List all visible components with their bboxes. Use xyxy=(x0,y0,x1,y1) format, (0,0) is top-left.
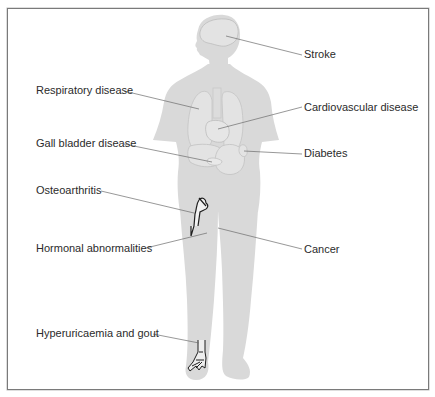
label-respiratory-disease: Respiratory disease xyxy=(36,84,133,97)
label-osteoarthritis: Osteoarthritis xyxy=(36,184,101,197)
label-stroke: Stroke xyxy=(304,48,336,61)
heart-organ xyxy=(206,120,230,142)
label-diabetes: Diabetes xyxy=(304,147,347,160)
label-cancer: Cancer xyxy=(304,243,339,256)
label-hyperuricaemia-and-gout: Hyperuricaemia and gout xyxy=(36,327,159,340)
label-cardiovascular-disease: Cardiovascular disease xyxy=(304,101,418,114)
label-gall-bladder-disease: Gall bladder disease xyxy=(36,137,136,150)
label-hormonal-abnormalities: Hormonal abnormalities xyxy=(36,242,152,255)
body-silhouette xyxy=(153,15,279,380)
